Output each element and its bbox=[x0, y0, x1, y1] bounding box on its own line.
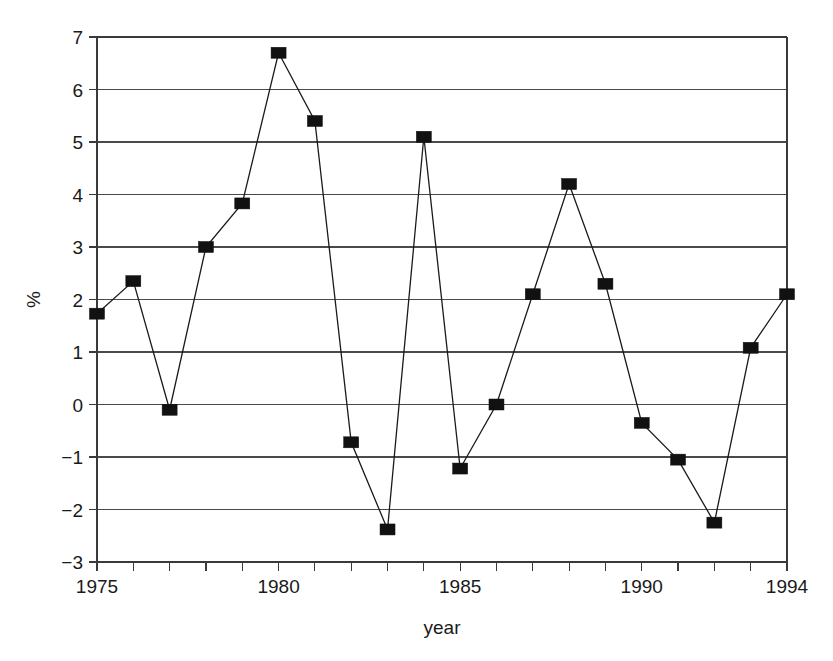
x-tick-label-1975: 1975 bbox=[76, 576, 118, 597]
data-marker-1975 bbox=[90, 308, 105, 319]
x-tick-label-1980: 1980 bbox=[257, 576, 299, 597]
data-marker-1992 bbox=[707, 517, 722, 528]
y-tick-label-6: 6 bbox=[72, 80, 83, 101]
line-chart: −3−2−101234567 19751980198519901994 % ye… bbox=[0, 0, 833, 661]
data-marker-1987 bbox=[525, 289, 540, 300]
y-tick-label--2: −2 bbox=[61, 500, 83, 521]
x-tick-label-1985: 1985 bbox=[439, 576, 481, 597]
y-tick-label--1: −1 bbox=[61, 447, 83, 468]
x-axis-title: year bbox=[424, 617, 462, 638]
data-marker-1994 bbox=[780, 289, 795, 300]
data-marker-1982 bbox=[344, 437, 359, 448]
y-tick-label--3: −3 bbox=[61, 552, 83, 573]
data-marker-1993 bbox=[743, 342, 758, 353]
data-marker-1985 bbox=[453, 463, 468, 474]
y-tick-label-5: 5 bbox=[72, 132, 83, 153]
data-marker-1976 bbox=[126, 276, 141, 287]
y-axis-title: % bbox=[23, 291, 44, 308]
y-tick-label-4: 4 bbox=[72, 185, 83, 206]
data-marker-1977 bbox=[162, 404, 177, 415]
data-marker-1983 bbox=[380, 524, 395, 535]
data-marker-1990 bbox=[634, 417, 649, 428]
x-tick-label-1990: 1990 bbox=[621, 576, 663, 597]
data-marker-1984 bbox=[416, 131, 431, 142]
data-marker-1991 bbox=[671, 454, 686, 465]
data-marker-1986 bbox=[489, 399, 504, 410]
y-tick-label-2: 2 bbox=[72, 290, 83, 311]
y-tick-label-1: 1 bbox=[72, 342, 83, 363]
data-marker-1978 bbox=[198, 242, 213, 253]
data-marker-1989 bbox=[598, 278, 613, 289]
data-marker-1979 bbox=[235, 198, 250, 209]
y-tick-label-0: 0 bbox=[72, 395, 83, 416]
data-marker-1981 bbox=[307, 116, 322, 127]
chart-container: −3−2−101234567 19751980198519901994 % ye… bbox=[0, 0, 833, 661]
data-marker-1988 bbox=[562, 179, 577, 190]
y-tick-label-3: 3 bbox=[72, 237, 83, 258]
y-tick-label-7: 7 bbox=[72, 27, 83, 48]
x-tick-label-1994: 1994 bbox=[766, 576, 809, 597]
data-marker-1980 bbox=[271, 47, 286, 58]
